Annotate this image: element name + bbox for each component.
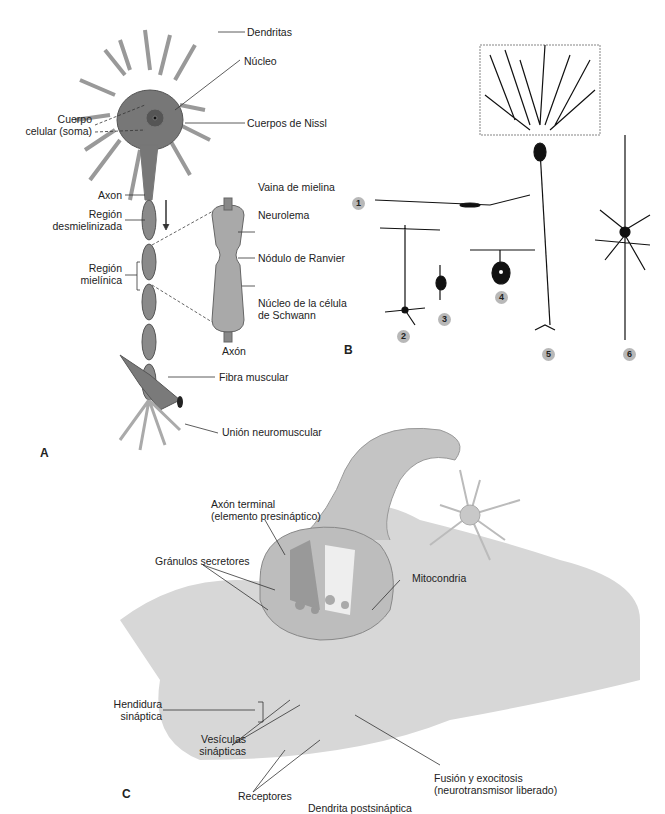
myelinated-axon-drawing [120,200,183,450]
label-vesiculas-line2: sinápticas [170,745,246,757]
panel-letter-b: B [344,343,353,357]
label-region-desmielinizada-line1: Región [40,208,122,220]
neuron-badge-2: 2 [397,330,410,343]
label-union-neuromuscular: Unión neuromuscular [222,426,322,438]
label-axon-detail: Axón [222,345,246,357]
label-hendidura-line1: Hendidura [90,698,162,710]
panel-letter-a: A [40,446,49,460]
label-nucleo-schwann-line1: Núcleo de la célula [258,297,347,309]
label-receptores: Receptores [238,790,292,802]
neuron-badge-6: 6 [623,348,636,361]
label-axon-terminal-line1: Axón terminal [211,498,275,510]
label-fusion-line2: (neurotransmisor liberado) [434,784,557,796]
label-fibra-muscular: Fibra muscular [219,371,288,383]
multipolar-neuron-drawing [75,30,210,200]
label-axon-terminal-line2: (elemento presináptico) [211,510,321,522]
label-axon: Axon [60,189,122,201]
label-cuerpo-celular-line1: Cuerpo [28,113,92,125]
label-neurolema: Neurolema [258,209,309,221]
label-nucleo: Núcleo [244,55,277,67]
neuron-badge-5: 5 [542,348,555,361]
label-nodulo-ranvier: Nódulo de Ranvier [258,252,345,264]
label-nucleo-schwann-line2: de Schwann [258,309,316,321]
label-cuerpos-nissl: Cuerpos de Nissl [247,117,327,129]
neuron-badge-4: 4 [495,291,508,304]
label-cuerpo-celular-line2: celular (soma) [10,125,92,137]
label-dendrita-postsinaptica: Dendrita postsináptica [308,802,412,814]
panel-letter-c: C [122,787,131,801]
label-vaina-mielina: Vaina de mielina [258,181,335,193]
label-fusion-line1: Fusión y exocitosis [434,772,523,784]
neuron-badge-1: 1 [352,197,365,210]
label-mitocondria: Mitocondria [412,572,466,584]
label-region-mielinica-line2: mielínica [40,274,122,286]
label-region-mielinica-line1: Región [40,262,122,274]
neuron-types-drawing [375,45,650,340]
label-granulos-secretores: Gránulos secretores [155,555,250,567]
label-vesiculas-line1: Vesículas [170,733,246,745]
label-hendidura-line2: sináptica [90,710,162,722]
label-region-desmielinizada-line2: desmielinizada [40,220,122,232]
label-dendritas: Dendritas [247,26,292,38]
neuron-badge-3: 3 [438,313,451,326]
